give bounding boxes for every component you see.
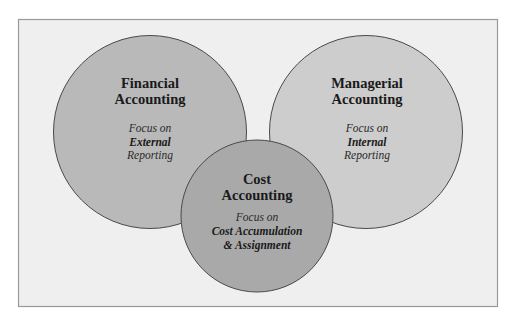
managerial-title-line2: Accounting	[332, 91, 404, 107]
managerial-focus-label: Focus on	[345, 122, 389, 134]
cost-focus-emphasis: Cost Accumulation	[212, 225, 303, 237]
cost-focus-tail: & Assignment	[224, 239, 292, 252]
cost-accounting-circle: Cost Accounting Focus on Cost Accumulati…	[181, 140, 333, 292]
accounting-venn-diagram: Financial Accounting Focus on External R…	[0, 0, 513, 319]
financial-focus-emphasis: External	[128, 136, 171, 148]
financial-focus-label: Focus on	[128, 122, 172, 134]
financial-focus-tail: Reporting	[126, 149, 173, 162]
cost-title-line2: Accounting	[222, 187, 294, 203]
managerial-title-line1: Managerial	[331, 75, 403, 91]
financial-title-line1: Financial	[121, 75, 179, 91]
cost-focus-label: Focus on	[235, 211, 279, 223]
managerial-focus-emphasis: Internal	[347, 136, 388, 148]
cost-title-line1: Cost	[243, 171, 271, 187]
managerial-focus-tail: Reporting	[343, 149, 390, 162]
financial-title-line2: Accounting	[115, 91, 187, 107]
